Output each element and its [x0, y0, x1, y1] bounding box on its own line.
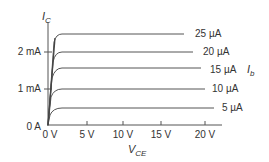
x-axis-title: VCE	[128, 143, 147, 158]
curve-15ua	[48, 68, 201, 125]
y-tick-label-0a: 0 A	[27, 121, 42, 132]
curves	[48, 34, 214, 125]
curve-label-25ua: 25 µA	[195, 28, 222, 39]
curve-25ua	[48, 34, 184, 125]
x-tick-label-15v: 15 V	[151, 129, 172, 140]
x-tick-label-0v: 0 V	[42, 129, 57, 140]
curve-label-10ua: 10 µA	[212, 83, 239, 94]
x-tick-label-20v: 20 V	[195, 129, 216, 140]
y-tick-label-2ma: 2 mA	[18, 46, 42, 57]
curve-label-20ua: 20 µA	[203, 46, 230, 57]
y-tick-label-1ma: 1 mA	[18, 83, 42, 94]
curve-5ua	[48, 108, 214, 125]
curve-label-15ua: 15 µA	[210, 64, 237, 75]
param-label: Ib	[247, 63, 255, 78]
curve-10ua	[48, 89, 205, 125]
y-axis-title: IC	[42, 10, 51, 25]
x-tick-label-10v: 10 V	[113, 129, 134, 140]
x-tick-label-5v: 5 V	[79, 129, 94, 140]
transistor-characteristic-chart: 25 µA 20 µA 15 µA 10 µA 5 µA Ib 2 mA 1 m…	[0, 0, 269, 162]
curve-label-5ua: 5 µA	[222, 102, 243, 113]
